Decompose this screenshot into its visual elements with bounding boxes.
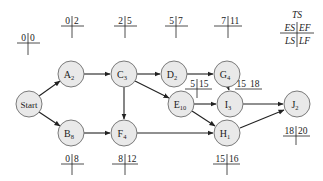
time-label-i: 15 18 — [235, 79, 262, 89]
time-label-a: 0 2 — [61, 16, 84, 38]
time-label-g: 7 11 — [214, 16, 242, 38]
es-value: 5 — [190, 79, 195, 89]
ef-value: 5 — [127, 16, 132, 26]
es-value: 15 — [237, 79, 247, 89]
legend-ls: LS — [284, 36, 295, 46]
edge-start-b — [39, 112, 60, 126]
legend-ef: EF — [298, 23, 311, 33]
node-duration: 3 — [228, 104, 231, 111]
node-letter: H — [220, 128, 227, 139]
ef-value: 11 — [230, 16, 239, 26]
node-b: B8 — [58, 120, 84, 146]
node-e: E10 — [168, 91, 194, 117]
ef-value: 18 — [250, 79, 260, 89]
es-value: 15 — [216, 154, 226, 164]
node-duration: 2 — [295, 104, 298, 111]
es-value: 0 — [65, 16, 70, 26]
ef-value: 2 — [74, 16, 79, 26]
edge-h-j — [240, 110, 284, 128]
es-value: 0 — [65, 154, 70, 164]
time-label-h: 15 16 — [213, 154, 240, 175]
legend-es: ES — [283, 23, 295, 33]
es-value: 0 — [21, 33, 26, 43]
node-d: D2 — [161, 61, 187, 87]
time-label-b: 0 8 — [61, 154, 84, 175]
node-duration: 10 — [180, 104, 187, 111]
time-label-f: 8 12 — [112, 154, 138, 175]
es-value: 2 — [118, 16, 123, 26]
ef-value: 16 — [229, 154, 239, 164]
ef-value: 20 — [298, 126, 308, 136]
node-i: I3 — [217, 91, 243, 117]
ef-value: 15 — [199, 79, 209, 89]
es-value: 8 — [118, 154, 123, 164]
node-a: A2 — [58, 61, 84, 87]
network-diagram: Start A2 B8 C3 D2 E10 F4 G4 H1 I3 J2 — [0, 0, 323, 181]
node-letter: G — [220, 69, 227, 80]
node-label: Start — [21, 100, 38, 110]
edge-e-h — [192, 111, 215, 126]
node-h: H1 — [214, 120, 240, 146]
node-duration: 2 — [71, 74, 74, 81]
ef-value: 8 — [74, 154, 79, 164]
time-label-j: 18 20 — [283, 126, 310, 145]
legend-lf: LF — [298, 36, 310, 46]
es-value: 7 — [221, 16, 226, 26]
time-label-d: 5 7 — [165, 16, 188, 38]
time-label-start: 0 0 — [17, 33, 40, 55]
node-c: C3 — [111, 61, 137, 87]
edge-start-a — [39, 81, 60, 96]
node-duration: 1 — [227, 133, 230, 140]
ef-value: 0 — [30, 33, 35, 43]
legend: TS ES EF LS LF — [280, 10, 314, 47]
node-duration: 2 — [174, 74, 177, 81]
node-letter: D — [167, 69, 174, 80]
ef-value: 7 — [178, 16, 183, 26]
es-value: 18 — [285, 126, 295, 136]
node-f: F4 — [111, 120, 137, 146]
node-duration: 8 — [71, 133, 74, 140]
node-j: J2 — [284, 91, 310, 117]
es-value: 5 — [169, 16, 174, 26]
ef-value: 12 — [127, 154, 137, 164]
time-label-c: 2 5 — [114, 16, 137, 38]
edge-c-e — [135, 81, 169, 98]
node-start: Start — [16, 91, 42, 117]
legend-ts: TS — [292, 10, 302, 20]
node-duration: 3 — [124, 74, 127, 81]
